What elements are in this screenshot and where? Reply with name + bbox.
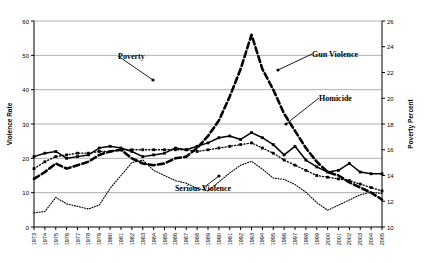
series-marker xyxy=(185,148,188,151)
series-marker xyxy=(304,159,307,162)
series-marker xyxy=(381,190,384,193)
x-tick-label: 1994 xyxy=(259,233,265,245)
series-marker xyxy=(196,150,199,153)
series-marker xyxy=(337,169,340,172)
series-marker xyxy=(217,147,220,150)
x-tick-label: 1975 xyxy=(53,233,59,245)
annotation-arrowhead xyxy=(284,122,287,125)
x-tick-label: 1985 xyxy=(162,233,168,245)
x-tick-label: 1997 xyxy=(292,233,298,245)
series-marker xyxy=(272,143,275,146)
y-tick-label-left: 40 xyxy=(22,87,29,93)
annotation-arrowhead xyxy=(276,68,279,71)
x-tick-label: 1996 xyxy=(281,233,287,245)
x-tick-label: 2002 xyxy=(346,233,352,245)
series-marker xyxy=(359,183,362,186)
x-tick-label: 1989 xyxy=(205,233,211,245)
series-marker xyxy=(98,150,101,153)
y-tick-label-left: 10 xyxy=(22,190,29,196)
series-marker xyxy=(315,166,318,169)
x-tick-label: 1979 xyxy=(96,233,102,245)
x-tick-label: 2005 xyxy=(379,233,385,245)
series-marker xyxy=(337,178,340,181)
series-marker xyxy=(120,148,123,151)
y-tick-label-right: 16 xyxy=(387,147,394,153)
x-tick-label: 1986 xyxy=(172,233,178,245)
series-marker xyxy=(54,150,57,153)
y-tick-label-right: 12 xyxy=(387,199,394,205)
series-marker xyxy=(217,136,220,139)
series-marker xyxy=(87,152,90,155)
series-marker xyxy=(141,155,144,158)
x-tick-label: 2004 xyxy=(368,233,374,245)
annotation-arrowhead xyxy=(217,174,220,177)
y-axis-title-left: Violence Rate xyxy=(6,102,13,145)
y-tick-label-left: 30 xyxy=(22,122,29,128)
x-tick-label: 1991 xyxy=(227,233,233,245)
series-marker xyxy=(43,152,46,155)
y-tick-label-right: 22 xyxy=(387,70,394,76)
chart-canvas: 0102030405060101214161820222426197319741… xyxy=(0,0,426,263)
x-tick-label: 1973 xyxy=(31,233,37,245)
series-marker xyxy=(381,172,384,175)
series-marker xyxy=(207,148,210,151)
series-marker xyxy=(261,147,264,150)
series-marker xyxy=(294,164,297,167)
series-marker xyxy=(109,150,112,153)
x-tick-label: 1978 xyxy=(85,233,91,245)
series-marker xyxy=(294,145,297,148)
x-tick-label: 2001 xyxy=(336,233,342,245)
x-tick-label: 1999 xyxy=(314,233,320,245)
series-line-gun-violence xyxy=(34,35,382,200)
x-tick-label: 1974 xyxy=(42,233,48,245)
y-tick-label-right: 18 xyxy=(387,122,394,128)
series-marker xyxy=(76,155,79,158)
series-marker xyxy=(174,148,177,151)
series-marker xyxy=(228,145,231,148)
series-marker xyxy=(196,145,199,148)
series-marker xyxy=(250,131,253,134)
series-marker xyxy=(370,172,373,175)
series-marker xyxy=(283,154,286,157)
annotation-leader xyxy=(278,54,312,70)
series-marker xyxy=(109,145,112,148)
x-tick-label: 1990 xyxy=(216,233,222,245)
annotation-label: Homicide xyxy=(319,94,352,103)
x-tick-label: 1998 xyxy=(303,233,309,245)
x-tick-label: 1983 xyxy=(140,233,146,245)
series-marker xyxy=(54,155,57,158)
series-marker xyxy=(33,155,36,158)
y-tick-label-left: 50 xyxy=(22,53,29,59)
series-marker xyxy=(326,171,329,174)
series-marker xyxy=(359,171,362,174)
series-marker xyxy=(65,157,68,160)
series-marker xyxy=(239,138,242,141)
annotation-label: Poverty xyxy=(118,52,145,61)
y-tick-label-right: 20 xyxy=(387,96,394,102)
series-marker xyxy=(348,162,351,165)
x-tick-label: 1977 xyxy=(75,233,81,245)
series-marker xyxy=(152,148,155,151)
y-tick-label-right: 10 xyxy=(387,225,394,231)
x-tick-label: 1984 xyxy=(151,233,157,245)
y-tick-label-left: 60 xyxy=(22,19,29,25)
series-marker xyxy=(207,141,210,144)
annotation-label: Gun Violence xyxy=(312,50,358,59)
series-marker xyxy=(315,174,318,177)
series-marker xyxy=(163,152,166,155)
annotation-label: Serious Violence xyxy=(175,184,232,193)
y-tick-label-right: 24 xyxy=(387,44,394,50)
y-tick-label-right: 26 xyxy=(387,19,394,25)
series-marker xyxy=(261,136,264,139)
series-marker xyxy=(370,186,373,189)
series-marker xyxy=(348,179,351,182)
y-tick-label-left: 20 xyxy=(22,156,29,162)
series-marker xyxy=(152,154,155,157)
series-marker xyxy=(228,135,231,138)
series-marker xyxy=(76,152,79,155)
series-marker xyxy=(163,148,166,151)
violence-poverty-chart: 0102030405060101214161820222426197319741… xyxy=(0,0,426,263)
series-marker xyxy=(283,159,286,162)
annotation-arrowhead xyxy=(151,78,154,81)
y-tick-label-right: 14 xyxy=(387,173,394,179)
